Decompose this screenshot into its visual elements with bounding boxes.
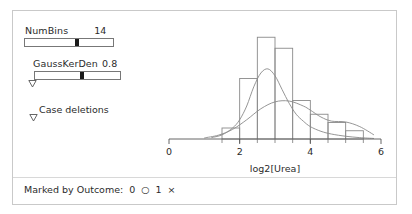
marked-by-outcome-label: Marked by Outcome:	[24, 184, 123, 195]
triangle-down-icon[interactable]	[24, 72, 32, 79]
histogram-bar	[257, 37, 275, 139]
numbins-label-row: NumBins 14	[24, 25, 156, 36]
footer-divider	[13, 177, 396, 178]
x-axis-tick-label: 4	[307, 146, 313, 157]
gausskerden-slider-row	[24, 71, 156, 80]
numbins-slider-row	[24, 38, 156, 47]
triangle-down-icon[interactable]	[25, 106, 33, 113]
chart-canvas: 0246	[161, 23, 389, 163]
controls-panel: NumBins 14 GaussKerDen 0.8	[24, 25, 156, 115]
numbins-value: 14	[94, 25, 106, 36]
gausskerden-label-row: GaussKerDen 0.8	[24, 58, 156, 69]
histogram-bar	[310, 114, 328, 139]
density-curve	[204, 101, 374, 138]
numbins-slider[interactable]	[24, 38, 114, 47]
x-axis-title: log2[Urea]	[161, 163, 389, 174]
histogram-chart: 0246 log2[Urea]	[161, 23, 389, 178]
legend-value-0: 0	[129, 184, 135, 195]
case-deletions-row[interactable]: Case deletions	[24, 104, 156, 115]
x-axis-tick-label: 6	[378, 146, 384, 157]
gausskerden-slider-thumb[interactable]	[80, 72, 84, 79]
x-axis-tick-label: 2	[237, 146, 243, 157]
x-axis-tick-label: 0	[166, 146, 172, 157]
numbins-label: NumBins	[25, 25, 68, 36]
histogram-bars	[222, 37, 363, 139]
gausskerden-slider[interactable]	[34, 71, 121, 80]
case-deletions-label: Case deletions	[39, 104, 109, 115]
histogram-bar	[240, 79, 258, 140]
cross-marker: ×	[168, 184, 176, 195]
numbins-control: NumBins 14	[24, 25, 156, 47]
circle-marker: ○	[141, 184, 149, 195]
legend-value-1: 1	[156, 184, 162, 195]
gausskerden-value: 0.8	[102, 58, 117, 69]
x-axis	[169, 139, 381, 144]
histogram-bar	[328, 123, 346, 140]
gausskerden-control: GaussKerDen 0.8	[24, 58, 156, 80]
histogram-explorer-panel: NumBins 14 GaussKerDen 0.8	[12, 10, 397, 205]
status-bar: Marked by Outcome: 0 ○ 1 ×	[24, 184, 182, 195]
numbins-slider-thumb[interactable]	[75, 39, 79, 46]
x-axis-tick-labels: 0246	[166, 146, 384, 157]
gausskerden-label: GaussKerDen	[33, 58, 98, 69]
